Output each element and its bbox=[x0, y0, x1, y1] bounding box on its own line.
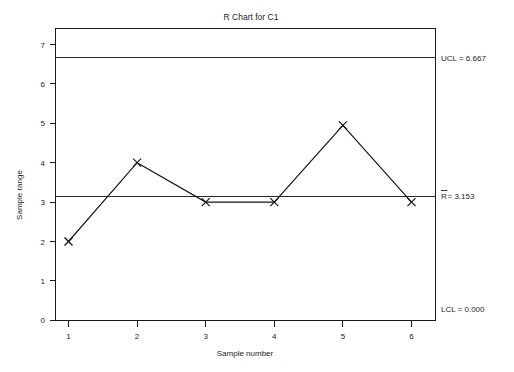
x-tick-label-5: 5 bbox=[341, 332, 346, 341]
center-label-prefix: R bbox=[441, 192, 447, 201]
y-tick-label-4: 4 bbox=[41, 159, 46, 168]
chart-background bbox=[0, 0, 514, 372]
lcl-label: LCL = 0.000 bbox=[441, 305, 485, 314]
x-axis-title: Sample number bbox=[217, 349, 274, 358]
y-tick-label-3: 3 bbox=[41, 198, 46, 207]
y-tick-label-7: 7 bbox=[41, 41, 46, 50]
y-tick-label-1: 1 bbox=[41, 277, 46, 286]
y-tick-label-6: 6 bbox=[41, 80, 46, 89]
y-tick-label-2: 2 bbox=[41, 238, 46, 247]
center-label-group: R = 3.153 bbox=[441, 191, 475, 202]
x-tick-label-1: 1 bbox=[66, 332, 71, 341]
chart-title: R Chart for C1 bbox=[224, 12, 279, 22]
r-chart-container: R Chart for C1 7 6 5 4 3 2 1 0 Sample ra… bbox=[0, 0, 514, 372]
x-tick-label-2: 2 bbox=[135, 332, 140, 341]
ucl-label: UCL = 6.667 bbox=[441, 54, 486, 63]
x-tick-label-3: 3 bbox=[203, 332, 208, 341]
center-label-suffix: = 3.153 bbox=[448, 192, 475, 201]
x-tick-label-6: 6 bbox=[409, 332, 414, 341]
x-tick-label-4: 4 bbox=[272, 332, 277, 341]
y-tick-label-5: 5 bbox=[41, 119, 46, 128]
y-axis-title: Sample range bbox=[15, 170, 24, 220]
r-chart-svg: R Chart for C1 7 6 5 4 3 2 1 0 Sample ra… bbox=[0, 0, 514, 372]
y-tick-label-0: 0 bbox=[41, 316, 46, 325]
